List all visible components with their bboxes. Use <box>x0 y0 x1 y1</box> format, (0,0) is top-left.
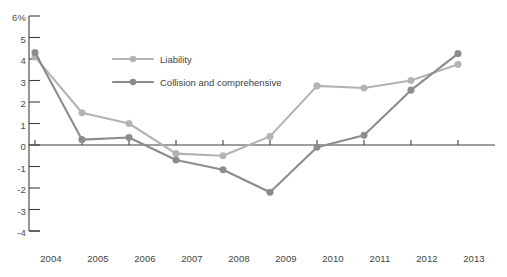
legend-label-collision: Collision and comprehensive <box>160 77 281 88</box>
data-point <box>455 61 462 68</box>
data-point <box>220 152 227 159</box>
data-point <box>220 166 227 173</box>
data-point <box>408 77 415 84</box>
data-point <box>267 189 274 196</box>
y-tick-label-3: 3 <box>0 77 26 88</box>
x-tick-label-2006: 2006 <box>125 253 165 264</box>
legend-label-liability: Liability <box>160 54 192 65</box>
data-point <box>314 144 321 151</box>
y-tick-label-6: 6% <box>0 12 26 23</box>
data-point <box>32 49 39 56</box>
data-point <box>173 157 180 164</box>
data-point <box>79 136 86 143</box>
legend-marker <box>130 56 137 63</box>
y-tick-label-5: 5 <box>0 34 26 45</box>
series-line <box>35 53 458 193</box>
y-tick-label-neg3: -3 <box>0 206 26 217</box>
x-tick-label-2007: 2007 <box>172 253 212 264</box>
legend-swatch-liability <box>113 56 153 63</box>
y-tick-label-2: 2 <box>0 98 26 109</box>
x-tick-label-2009: 2009 <box>266 253 306 264</box>
data-point <box>126 120 133 127</box>
data-point <box>361 132 368 139</box>
data-point <box>455 50 462 57</box>
data-point <box>314 83 321 90</box>
y-tick-label-neg1: -1 <box>0 163 26 174</box>
y-tick-label-0: 0 <box>0 141 26 152</box>
data-point <box>361 85 368 92</box>
data-point <box>173 150 180 157</box>
x-tick-label-2011: 2011 <box>360 253 400 264</box>
y-tick-label-neg4: -4 <box>0 227 26 238</box>
series-collision-and-comprehensive <box>32 49 462 195</box>
data-point <box>408 87 415 94</box>
x-tick-label-2010: 2010 <box>313 253 353 264</box>
x-tick-label-2013: 2013 <box>454 253 494 264</box>
y-tick-label-1: 1 <box>0 120 26 131</box>
x-tick-label-2012: 2012 <box>407 253 447 264</box>
chart-plot-area <box>0 0 507 277</box>
line-chart: 6% 5 4 3 2 1 0 -1 -2 -3 -4 2004 2005 200… <box>0 0 507 277</box>
x-tick-label-2008: 2008 <box>219 253 259 264</box>
x-tick-label-2004: 2004 <box>31 253 71 264</box>
legend-marker <box>130 79 137 86</box>
y-tick-label-neg2: -2 <box>0 184 26 195</box>
series-liability <box>32 54 462 160</box>
data-point <box>79 109 86 116</box>
legend-swatch-collision <box>113 79 153 86</box>
x-tick-label-2005: 2005 <box>78 253 118 264</box>
y-tick-label-4: 4 <box>0 55 26 66</box>
data-point <box>126 134 133 141</box>
data-point <box>267 133 274 140</box>
